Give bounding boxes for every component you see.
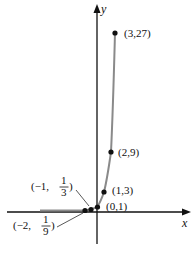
y-axis-label: y	[100, 2, 107, 16]
point-1-3	[101, 189, 106, 194]
leader-neg1	[76, 190, 89, 206]
exponential-graph: x y (3,27) (2,9) (1,3) (0,1) (−1, 1 3 ) …	[0, 0, 192, 254]
exponential-curve	[40, 33, 115, 211]
point-neg2-ninth	[82, 208, 87, 213]
y-axis-arrow-icon	[94, 4, 101, 13]
label-3-27: (3,27)	[124, 27, 151, 40]
label-2-9: (2,9)	[118, 146, 139, 159]
label-neg1-third: (−1, 1 3 )	[31, 174, 73, 198]
label-1-3: (1,3)	[112, 184, 133, 197]
svg-text:): )	[51, 219, 55, 232]
x-axis-arrow-icon	[182, 209, 191, 216]
point-neg1-third	[88, 207, 93, 212]
point-0-1	[95, 204, 100, 209]
point-2-9	[108, 149, 113, 154]
svg-text:9: 9	[43, 225, 49, 237]
leader-neg2	[57, 213, 83, 227]
svg-text:(−1,: (−1,	[31, 180, 49, 193]
svg-text:(−2,: (−2,	[13, 219, 31, 232]
x-axis-label: x	[181, 216, 188, 230]
point-3-27	[112, 30, 117, 35]
label-neg2-ninth: (−2, 1 9 )	[13, 213, 55, 237]
svg-text:1: 1	[43, 213, 49, 225]
svg-text:1: 1	[61, 174, 67, 186]
svg-text:): )	[69, 180, 73, 193]
label-0-1: (0,1)	[106, 200, 127, 213]
svg-text:3: 3	[61, 186, 67, 198]
